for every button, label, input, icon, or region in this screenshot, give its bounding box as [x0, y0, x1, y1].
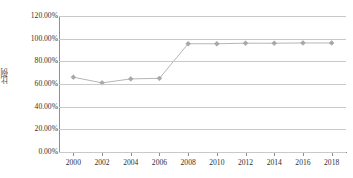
series-line — [73, 43, 331, 83]
x-axis-tick — [159, 153, 160, 156]
gridline — [59, 107, 346, 108]
gridline — [59, 16, 346, 17]
data-point-marker — [329, 41, 334, 46]
data-point-marker — [71, 75, 76, 80]
gridline — [59, 84, 346, 85]
gridline — [59, 61, 346, 62]
gridline — [59, 129, 346, 130]
gridline — [59, 39, 346, 40]
x-axis-tick — [188, 153, 189, 156]
x-axis-tick — [217, 153, 218, 156]
x-axis-tick — [274, 153, 275, 156]
x-axis-tick — [131, 153, 132, 156]
y-axis-tick-labels: 0.00%20.00%40.00%60.00%80.00%100.00%120.… — [10, 10, 58, 158]
data-point-marker — [243, 41, 248, 46]
series-markers — [71, 41, 334, 86]
data-point-marker — [301, 41, 306, 46]
y-axis-tick-label: 40.00% — [10, 103, 58, 111]
y-axis-tick-label: 80.00% — [10, 57, 58, 65]
plot-area — [59, 16, 346, 152]
x-axis-tick — [73, 153, 74, 156]
x-axis-tick — [303, 153, 304, 156]
y-axis-tick-label: 60.00% — [10, 80, 58, 88]
data-point-marker — [128, 77, 133, 82]
y-axis-tick-label: 100.00% — [10, 35, 58, 43]
x-axis-tick — [246, 153, 247, 156]
x-axis-tick-label: 2018 — [315, 158, 349, 167]
y-axis-tick-label: 0.00% — [10, 148, 58, 156]
data-point-marker — [214, 41, 219, 46]
y-axis-tick-label: 120.00% — [10, 12, 58, 20]
x-axis-tick — [332, 153, 333, 156]
data-point-marker — [272, 41, 277, 46]
x-axis-tick — [102, 153, 103, 156]
line-chart: 比例 0.00%20.00%40.00%60.00%80.00%100.00%1… — [0, 0, 353, 178]
y-axis-tick-label: 20.00% — [10, 125, 58, 133]
